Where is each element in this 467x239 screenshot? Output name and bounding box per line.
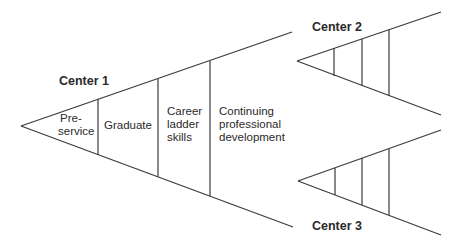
segment-preservice: Pre- service — [58, 112, 94, 138]
segment-career-line3: skills — [167, 131, 202, 144]
center2-lower-edge — [297, 61, 441, 115]
segment-career-line2: ladder — [167, 118, 202, 131]
segment-preservice-line2: service — [58, 125, 94, 138]
segment-career-line1: Career — [167, 105, 202, 118]
segment-continuing-line2: professional — [219, 118, 285, 131]
segment-preservice-line1: Pre- — [58, 112, 94, 125]
center1-label: Center 1 — [59, 74, 109, 88]
segment-continuing-line1: Continuing — [219, 105, 285, 118]
center2-label: Center 2 — [312, 20, 362, 34]
segment-career-ladder: Career ladder skills — [167, 105, 202, 144]
center3-upper-edge — [298, 130, 441, 181]
segment-continuing: Continuing professional development — [219, 105, 285, 144]
center3-label: Center 3 — [312, 219, 362, 233]
segment-continuing-line3: development — [219, 131, 285, 144]
segment-graduate: Graduate — [104, 119, 152, 132]
